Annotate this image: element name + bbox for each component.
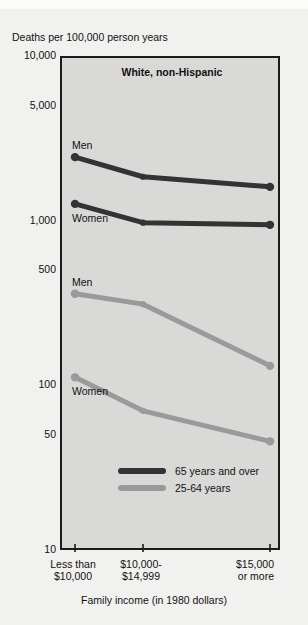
x-tick-label-line: $15,000 bbox=[196, 558, 274, 570]
legend-color-swatch bbox=[118, 485, 166, 491]
x-tick-label: $10,000-$14,999 bbox=[99, 558, 183, 582]
series-men-65-years-and-over bbox=[71, 153, 274, 191]
y-tick-label: 50 bbox=[0, 429, 56, 440]
x-tick-label-line: $10,000- bbox=[99, 558, 183, 570]
chart-figure: Deaths per 100,000 person years 10,0005,… bbox=[0, 0, 308, 625]
data-point-marker bbox=[140, 220, 146, 226]
x-tick-label: $15,000or more bbox=[196, 558, 274, 582]
legend-label: 65 years and over bbox=[175, 465, 259, 477]
y-tick-label: 100 bbox=[0, 379, 56, 390]
series-men-25-64-years bbox=[71, 290, 274, 370]
y-tick-label: 1,000 bbox=[0, 215, 56, 226]
data-point-marker bbox=[71, 200, 79, 208]
data-point-marker bbox=[266, 183, 274, 191]
y-tick-label: 500 bbox=[0, 264, 56, 275]
legend-entry: 25-64 years bbox=[118, 479, 259, 496]
y-axis-tick-labels: 10,0005,0001,0005001005010 bbox=[0, 0, 56, 625]
x-axis-title: Family income (in 1980 dollars) bbox=[0, 594, 308, 606]
series-line bbox=[75, 157, 270, 187]
series-inline-label: Men bbox=[72, 139, 92, 151]
data-point-marker bbox=[140, 301, 146, 307]
legend-entry: 65 years and over bbox=[118, 462, 259, 479]
data-point-marker bbox=[71, 290, 79, 298]
plot-title: White, non-Hispanic bbox=[62, 66, 282, 78]
series-inline-label: Men bbox=[72, 276, 92, 288]
data-point-marker bbox=[140, 174, 146, 180]
series-line bbox=[75, 294, 270, 366]
series-inline-label: Women bbox=[72, 212, 108, 224]
legend-label: 25-64 years bbox=[175, 482, 230, 494]
data-point-marker bbox=[140, 408, 146, 414]
series-women-25-64-years bbox=[71, 373, 274, 445]
data-point-marker bbox=[71, 373, 79, 381]
y-tick-label: 10 bbox=[0, 544, 56, 555]
y-tick-label: 10,000 bbox=[0, 50, 56, 61]
chart-legend: 65 years and over25-64 years bbox=[118, 462, 259, 496]
x-tick-label-line: $14,999 bbox=[99, 570, 183, 582]
x-tick-label-line: or more bbox=[196, 570, 274, 582]
data-point-marker bbox=[266, 362, 274, 370]
series-inline-label: Women bbox=[72, 385, 108, 397]
data-point-marker bbox=[71, 153, 79, 161]
data-point-marker bbox=[266, 221, 274, 229]
y-tick-label: 5,000 bbox=[0, 100, 56, 111]
legend-color-swatch bbox=[118, 468, 166, 474]
data-point-marker bbox=[266, 437, 274, 445]
